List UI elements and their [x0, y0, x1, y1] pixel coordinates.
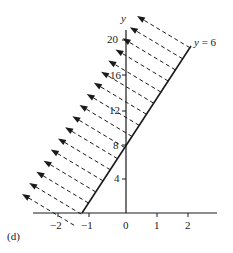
shading-arrow-shaft [56, 153, 103, 181]
arrowhead-icon [137, 16, 145, 23]
shading-arrows [22, 16, 190, 225]
arrowhead-icon [87, 94, 95, 101]
shading-arrow-shaft [99, 86, 146, 114]
arrowhead-icon [44, 161, 52, 168]
x-tick-label-1: 1 [154, 220, 160, 231]
y-tick-label-12: 12 [109, 105, 120, 116]
shading-arrow-shaft [128, 41, 176, 70]
panel-label: (d) [7, 231, 20, 242]
y-tick-label-16: 16 [110, 70, 121, 81]
y-axis-label: y [121, 13, 126, 24]
shading-arrow-shaft [142, 19, 190, 48]
arrowhead-icon [101, 72, 109, 79]
shading-arrow-shaft [34, 186, 81, 214]
arrowhead-icon [36, 172, 44, 179]
x-tick-label-2: 2 [185, 220, 191, 231]
arrowhead-icon [29, 183, 37, 190]
arrowhead-icon [130, 27, 138, 34]
shading-arrow-shaft [42, 175, 89, 203]
arrowhead-icon [58, 138, 66, 145]
arrowhead-icon [51, 150, 59, 157]
arrowhead-icon [22, 194, 30, 201]
boundary-line [82, 46, 191, 213]
shading-arrow-shaft [121, 52, 169, 81]
line-label-value: = 6 [199, 36, 216, 48]
shading-arrow-shaft [135, 30, 183, 59]
arrowhead-icon [108, 61, 116, 68]
shading-arrow-shaft [63, 141, 110, 169]
x-tick-label-neg2: −2 [50, 220, 62, 231]
arrowhead-icon [72, 116, 80, 123]
arrowhead-icon [65, 127, 73, 134]
arrowhead-icon [115, 49, 123, 56]
x-tick-label-0: 0 [123, 220, 129, 231]
arrowhead-icon [80, 105, 88, 112]
y-tick-label-20: 20 [107, 34, 118, 45]
line-label: y = 6 [194, 37, 216, 48]
x-tick-label-neg1: −1 [81, 220, 93, 231]
arrowhead-icon [123, 38, 131, 45]
y-tick-label-4: 4 [114, 173, 120, 184]
y-tick-label-8: 8 [113, 140, 119, 151]
shading-arrow-shaft [70, 130, 117, 158]
arrowhead-icon [94, 83, 102, 90]
x-ticks [58, 213, 188, 217]
shading-arrow-shaft [49, 164, 96, 192]
